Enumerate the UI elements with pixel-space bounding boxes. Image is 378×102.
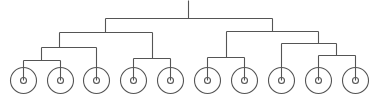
tree-edges bbox=[24, 1, 356, 81]
tree-svg bbox=[0, 0, 378, 102]
tree-leaves bbox=[11, 68, 369, 94]
dendrogram-diagram bbox=[0, 0, 378, 102]
